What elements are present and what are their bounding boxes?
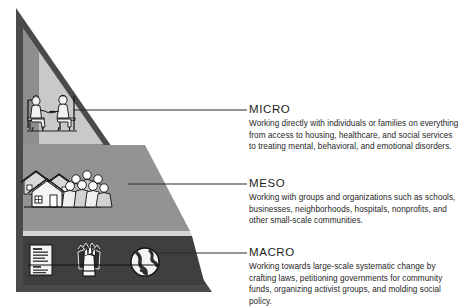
legal-document-icon xyxy=(30,245,52,275)
level-description-macro: Working towards large-scale systematic c… xyxy=(249,261,461,308)
level-description-meso: Working with groups and organizations su… xyxy=(249,192,461,227)
level-label-micro: MICRO Working directly with individuals … xyxy=(249,103,461,153)
level-label-meso: MESO Working with groups and organizatio… xyxy=(249,177,461,227)
level-heading-meso: MESO xyxy=(249,177,461,189)
level-heading-micro: MICRO xyxy=(249,103,461,115)
level-heading-macro: MACRO xyxy=(249,246,461,258)
level-description-micro: Working directly with individuals or fam… xyxy=(249,118,461,153)
level-label-macro: MACRO Working towards large-scale system… xyxy=(249,246,461,308)
globe-icon xyxy=(131,248,159,276)
tier-gap-middle-bottom xyxy=(23,231,192,236)
